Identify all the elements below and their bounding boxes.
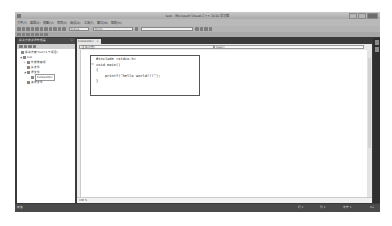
- configuration-select[interactable]: Debug: [69, 27, 89, 31]
- save-all-icon[interactable]: [35, 27, 39, 31]
- code-line-4: printf("hello world!!!");: [96, 74, 160, 80]
- status-line: 行 1: [298, 204, 303, 212]
- vertical-scrollbar[interactable]: [367, 50, 372, 197]
- zoom-level[interactable]: 100 %: [77, 197, 372, 203]
- menu-tools[interactable]: 工具(T): [84, 21, 94, 25]
- class-view-icon[interactable]: [33, 45, 37, 49]
- scope-select[interactable]: (全局范围): [79, 45, 214, 49]
- scrollbar-thumb[interactable]: [368, 58, 371, 148]
- find-in-files-icon[interactable]: [195, 27, 199, 31]
- indent-icon[interactable]: [17, 33, 21, 37]
- menu-window[interactable]: 窗口(W): [97, 21, 108, 25]
- comment-icon[interactable]: [26, 33, 30, 37]
- toolbox-tab-icon[interactable]: [375, 40, 379, 45]
- solution-explorer: 解决方案资源管理器 × 解决方案"test"(1 个项目) ◢ test ▷: [17, 38, 75, 203]
- member-select[interactable]: main(): [214, 45, 364, 49]
- solution-explorer-icon[interactable]: [200, 27, 204, 31]
- outdent-icon[interactable]: [22, 33, 26, 37]
- status-insert-mode: Ins: [370, 204, 374, 212]
- code-line-5: }: [96, 79, 160, 85]
- add-item-icon[interactable]: [22, 27, 26, 31]
- refresh-icon[interactable]: [28, 45, 32, 49]
- find-icon[interactable]: [135, 27, 139, 31]
- properties-icon[interactable]: [19, 45, 23, 49]
- solution-explorer-header: 解决方案资源管理器 ×: [17, 38, 75, 44]
- copy-icon[interactable]: [44, 27, 48, 31]
- menu-bar: 文件(F) 编辑(E) 视图(V) 项目(P) 调试(D) 工具(T) 窗口(W…: [15, 19, 380, 26]
- solution-icon: [21, 51, 24, 54]
- menu-edit[interactable]: 编辑(E): [30, 21, 40, 25]
- bookmark-icon[interactable]: [35, 33, 39, 37]
- cut-icon[interactable]: [40, 27, 44, 31]
- menu-view[interactable]: 视图(V): [43, 21, 53, 25]
- tree-item-label: 资源文件: [31, 80, 43, 85]
- project-icon: [23, 56, 26, 59]
- find-input[interactable]: [141, 27, 193, 31]
- redo-icon[interactable]: [58, 27, 62, 31]
- right-tool-strip: [373, 38, 380, 203]
- folder-icon: [27, 61, 30, 64]
- folder-icon: [27, 66, 30, 69]
- ide-window: test - Microsoft Visual C++ 2010 学习版 文件(…: [15, 12, 380, 212]
- folder-icon: [27, 81, 30, 84]
- menu-help[interactable]: 帮助(H): [111, 21, 122, 25]
- show-all-files-icon[interactable]: [24, 45, 28, 49]
- properties-tab-icon[interactable]: [375, 47, 379, 52]
- solution-tree: 解决方案"test"(1 个项目) ◢ test ▷ 外部依赖项 头文件 ◢ 源…: [17, 49, 75, 85]
- menu-project[interactable]: 项目(P): [57, 21, 67, 25]
- status-bar: 就绪 行 1 列 1 字符 1 Ins: [15, 204, 380, 212]
- solution-explorer-title: 解决方案资源管理器: [19, 39, 46, 42]
- menu-debug[interactable]: 调试(D): [70, 21, 81, 25]
- highlighted-code-box: ⊟ #include <stdio.h>void main(){ printf(…: [90, 55, 200, 96]
- selection-margin: [77, 50, 81, 197]
- menu-file[interactable]: 文件(F): [17, 21, 27, 25]
- paste-icon[interactable]: [49, 27, 53, 31]
- code-editor: helloworld.c × (全局范围) main() ⊟ #include …: [77, 38, 372, 203]
- new-project-icon[interactable]: [17, 27, 21, 31]
- folder-icon: [27, 71, 30, 74]
- status-column: 列 1: [320, 204, 325, 212]
- prev-bookmark-icon[interactable]: [40, 33, 44, 37]
- status-ready: 就绪: [17, 204, 23, 212]
- fold-icon[interactable]: ⊟: [92, 62, 94, 66]
- window-title: test - Microsoft Visual C++ 2010 学习版: [15, 13, 380, 18]
- close-icon[interactable]: ×: [71, 38, 73, 44]
- toolbox-icon[interactable]: [209, 27, 213, 31]
- code-lines: #include <stdio.h>void main(){ printf("h…: [96, 57, 160, 85]
- open-icon[interactable]: [26, 27, 30, 31]
- uncomment-icon[interactable]: [31, 33, 35, 37]
- properties-icon[interactable]: [204, 27, 208, 31]
- c-file-icon: [31, 76, 34, 79]
- status-char: 字符 1: [343, 204, 351, 212]
- start-debug-icon[interactable]: [62, 27, 66, 31]
- text-editor-toolbar: [15, 32, 380, 37]
- undo-icon[interactable]: [53, 27, 57, 31]
- title-bar: test - Microsoft Visual C++ 2010 学习版: [15, 12, 380, 19]
- tab-label: helloworld.c: [78, 40, 94, 43]
- save-icon[interactable]: [31, 27, 35, 31]
- close-icon[interactable]: ×: [97, 40, 99, 43]
- code-text-area[interactable]: ⊟ #include <stdio.h>void main(){ printf(…: [77, 50, 372, 197]
- platform-select[interactable]: Win32: [93, 27, 133, 31]
- next-bookmark-icon[interactable]: [44, 33, 48, 37]
